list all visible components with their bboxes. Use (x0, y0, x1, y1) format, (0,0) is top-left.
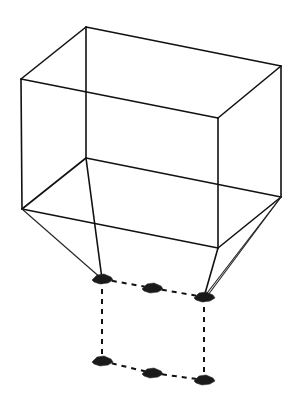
box-edge (22, 209, 218, 248)
projection-line (204, 248, 218, 297)
dashed-rectangle (102, 279, 204, 380)
box-edge (21, 79, 218, 118)
box-edge (218, 66, 281, 118)
projection-line (208, 197, 281, 295)
marker-top-right (194, 292, 215, 302)
projection-line (86, 158, 102, 279)
box-edge (21, 79, 22, 209)
wireframe-box-diagram (0, 0, 293, 403)
marker-points (92, 274, 215, 385)
box-edge (21, 27, 86, 79)
box-edge (22, 158, 86, 209)
box-edges (21, 27, 281, 248)
marker-bottom-right (194, 375, 215, 385)
box-edge (218, 197, 281, 248)
box-edge (86, 158, 281, 197)
marker-bottom-middle (142, 368, 163, 378)
box-edge (86, 27, 281, 66)
marker-bottom-left (92, 356, 113, 366)
marker-top-middle (142, 283, 163, 293)
projection-line (22, 209, 102, 279)
marker-top-left (92, 274, 113, 284)
